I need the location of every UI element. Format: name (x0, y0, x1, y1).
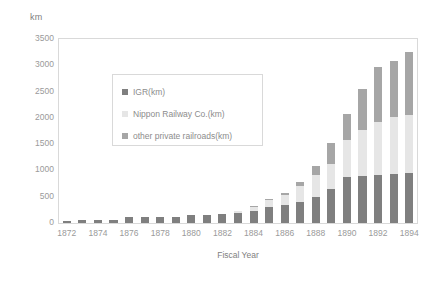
x-axis-tick-label: 1878 (151, 228, 170, 238)
bar-segment (78, 220, 86, 223)
bar-group (374, 39, 382, 223)
bar-segment (343, 140, 351, 177)
bar-segment (374, 175, 382, 223)
y-axis-tick-label: 3500 (20, 33, 54, 43)
bar-segment (374, 122, 382, 176)
bar-segment (250, 206, 258, 207)
legend-item-label: other private railroads(km) (133, 131, 232, 141)
bar-segment (296, 202, 304, 223)
bar-segment (312, 197, 320, 223)
bar-group (390, 39, 398, 223)
bar-segment (296, 186, 304, 202)
legend-swatch-icon (122, 133, 128, 139)
legend-item-label: Nippon Railway Co.(km) (133, 109, 225, 119)
bar-segment (343, 114, 351, 140)
bar-segment (343, 177, 351, 223)
x-axis-tick-label: 1876 (120, 228, 139, 238)
x-axis-tick-label: 1892 (369, 228, 388, 238)
bar-segment (250, 211, 258, 223)
legend-item-label: IGR(km) (133, 87, 165, 97)
bar-segment (405, 173, 413, 223)
bar-group (405, 39, 413, 223)
x-axis-tick-label: 1894 (400, 228, 419, 238)
bar-group (358, 39, 366, 223)
bar-segment (265, 207, 273, 223)
x-axis-tick-label: 1884 (244, 228, 263, 238)
bar-segment (265, 199, 273, 200)
bar-segment (172, 217, 180, 223)
bar-group (296, 39, 304, 223)
bar-group (78, 39, 86, 223)
legend-swatch-icon (122, 89, 128, 95)
x-axis-tick-label: 1882 (213, 228, 232, 238)
y-axis-tick-label: 1500 (20, 138, 54, 148)
bar-segment (265, 200, 273, 207)
y-axis-tick-label: 500 (20, 191, 54, 201)
bar-segment (156, 217, 164, 223)
bar-group (281, 39, 289, 223)
bar-segment (281, 205, 289, 223)
y-axis-tick-label: 1000 (20, 164, 54, 174)
bar-segment (281, 193, 289, 195)
bar-segment (358, 130, 366, 175)
y-axis-tick-label: 2000 (20, 112, 54, 122)
y-axis-tick-label: 2500 (20, 86, 54, 96)
bar-segment (203, 215, 211, 223)
bar-segment (374, 67, 382, 121)
bar-segment (234, 211, 242, 213)
bar-segment (390, 174, 398, 223)
bar-segment (187, 215, 195, 223)
bar-segment (125, 217, 133, 223)
bar-segment (63, 221, 71, 223)
bar-group (94, 39, 102, 223)
bar-segment (327, 143, 335, 164)
bar-segment (109, 220, 117, 223)
y-axis-tick-label: 0 (20, 217, 54, 227)
bar-segment (390, 117, 398, 173)
bar-segment (94, 220, 102, 223)
bar-group (343, 39, 351, 223)
x-axis-tick-labels: 1872187418761878188018821884188618881890… (58, 228, 418, 242)
x-axis-tick-label: 1886 (275, 228, 294, 238)
x-axis-tick-label: 1872 (57, 228, 76, 238)
bar-segment (281, 195, 289, 204)
bar-segment (312, 175, 320, 197)
legend-item[interactable]: IGR(km) (122, 82, 262, 101)
bar-segment (327, 164, 335, 189)
bar-segment (296, 182, 304, 186)
x-axis-tick-label: 1880 (182, 228, 201, 238)
bar-segment (218, 214, 226, 223)
y-axis-tick-labels: 0500100015002000250030003500 (20, 38, 54, 224)
x-axis-title: Fiscal Year (58, 250, 418, 260)
x-axis-tick-label: 1890 (337, 228, 356, 238)
legend-swatch-icon (122, 111, 128, 117)
bar-segment (358, 89, 366, 130)
bar-group (327, 39, 335, 223)
bar-group (63, 39, 71, 223)
legend-item[interactable]: other private railroads(km) (122, 126, 262, 145)
x-axis-tick-label: 1888 (306, 228, 325, 238)
legend-item[interactable]: Nippon Railway Co.(km) (122, 104, 262, 123)
bar-segment (234, 213, 242, 223)
bar-chart: km 0500100015002000250030003500 IGR(km)N… (0, 0, 436, 291)
bar-segment (250, 207, 258, 211)
x-axis-tick-label: 1874 (88, 228, 107, 238)
bar-segment (358, 176, 366, 223)
y-axis-unit-label: km (30, 12, 42, 22)
bar-segment (405, 52, 413, 115)
y-axis-tick-label: 3000 (20, 59, 54, 69)
bar-segment (405, 115, 413, 173)
bar-group (265, 39, 273, 223)
bar-group (312, 39, 320, 223)
bar-segment (390, 61, 398, 118)
chart-legend: IGR(km)Nippon Railway Co.(km)other priva… (112, 74, 263, 146)
bar-segment (327, 189, 335, 223)
bar-segment (141, 217, 149, 223)
bar-segment (312, 166, 320, 174)
